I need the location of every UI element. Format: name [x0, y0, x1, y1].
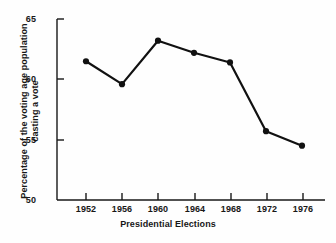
series-line	[86, 41, 302, 146]
x-tick-label-1972: 1972	[252, 204, 282, 214]
line-chart: 65 60 55 50 1952 1956 1960 1964 1968 197…	[0, 0, 336, 243]
y-axis-title-line1: Percentage of the voting age population	[19, 23, 29, 198]
x-tick-label-1964: 1964	[180, 204, 210, 214]
data-point-1968	[227, 59, 233, 65]
y-axis-title-line2: casting a vote	[30, 11, 41, 211]
y-axis-title: Percentage of the voting age population …	[19, 11, 41, 211]
data-point-1956	[119, 81, 125, 87]
data-point-1960	[155, 38, 161, 44]
x-axis-ticks	[86, 193, 303, 200]
data-point-1972	[263, 128, 269, 134]
x-tick-label-1952: 1952	[71, 204, 101, 214]
x-tick-label-1968: 1968	[216, 204, 246, 214]
data-point-1964	[191, 50, 197, 56]
x-tick-label-1956: 1956	[107, 204, 137, 214]
x-tick-label-1976: 1976	[288, 204, 318, 214]
y-axis-ticks	[57, 19, 64, 140]
x-tick-label-1960: 1960	[143, 204, 173, 214]
data-point-1976	[299, 143, 305, 149]
data-point-1952	[83, 58, 89, 64]
x-axis-title: Presidential Elections	[0, 219, 336, 229]
series-markers	[83, 38, 305, 149]
